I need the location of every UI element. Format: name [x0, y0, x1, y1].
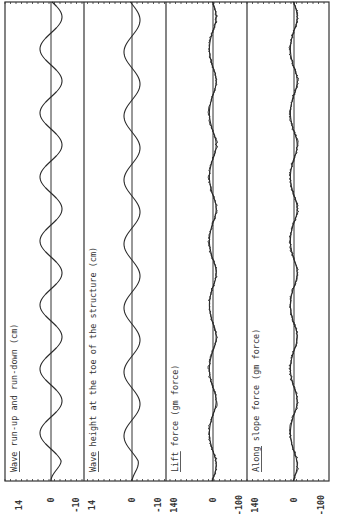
- panel-label: Lift force (gm force): [170, 365, 181, 472]
- y-tick-label: 0: [46, 497, 56, 502]
- y-tick-label: 14: [87, 500, 97, 510]
- svg-text:0: 0: [127, 497, 137, 502]
- svg-text:-100: -100: [316, 495, 326, 515]
- svg-text:14: 14: [14, 500, 24, 510]
- axis-tick-labels: 140-10140-101400-1001400-100: [14, 495, 326, 515]
- y-tick-label: -10: [153, 497, 163, 512]
- chart-figure: Wave run-up and run-down (cm)Wave height…: [0, 0, 339, 520]
- panel-label-text: Wave run-up and run-down (cm): [9, 324, 19, 472]
- y-tick-label: -10: [71, 497, 81, 512]
- y-tick-label: 0: [127, 497, 137, 502]
- outer-frame: [5, 2, 329, 481]
- panel-labels: Wave run-up and run-down (cm)Wave height…: [9, 247, 262, 472]
- svg-text:-10: -10: [153, 497, 163, 512]
- svg-text:0: 0: [46, 497, 56, 502]
- svg-text:0: 0: [289, 497, 299, 502]
- y-tick-label: -100: [316, 495, 326, 515]
- y-tick-label: 0: [289, 497, 299, 502]
- panel-label-text: Wave height at the toe of the structure …: [88, 247, 98, 472]
- y-tick-label: 140: [169, 497, 179, 512]
- y-tick-label: -100: [234, 495, 244, 515]
- svg-text:0: 0: [208, 497, 218, 502]
- y-tick-label: 140: [250, 497, 260, 512]
- svg-text:14: 14: [87, 500, 97, 510]
- svg-text:-10: -10: [71, 497, 81, 512]
- panel-label-text: Lift force (gm force): [170, 365, 180, 472]
- svg-text:-100: -100: [234, 495, 244, 515]
- svg-text:140: 140: [169, 497, 179, 512]
- panel-label: Wave height at the toe of the structure …: [88, 247, 99, 472]
- panel-label: Along slope force (gm force): [251, 329, 262, 472]
- panel-label: Wave run-up and run-down (cm): [9, 324, 20, 472]
- y-tick-label: 14: [14, 500, 24, 510]
- panel-label-text: Along slope force (gm force): [251, 329, 261, 472]
- svg-text:140: 140: [250, 497, 260, 512]
- y-tick-label: 0: [208, 497, 218, 502]
- panel-frames: [5, 2, 329, 481]
